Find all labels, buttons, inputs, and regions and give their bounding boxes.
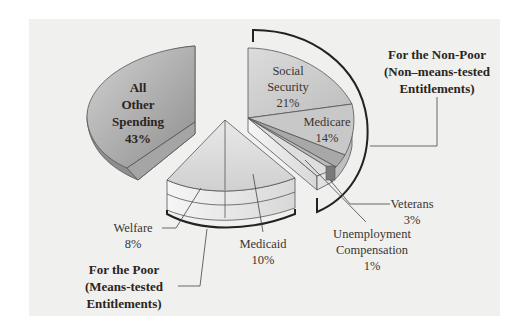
label-value: 10% [223,252,303,268]
label-line: Other [88,96,188,113]
label-group-non-poor: For the Non-Poor (Non–means-tested Entit… [367,46,507,97]
label-medicare: Medicare 14% [287,114,367,146]
veterans-side [326,166,335,180]
label-group-poor: For the Poor (Means-tested Entitlements) [59,261,189,312]
label-line: Entitlements) [59,295,189,312]
label-line: Unemployment [312,226,432,242]
label-value: 1% [312,258,432,274]
label-line: (Non–means-tested [367,63,507,80]
label-welfare: Welfare 8% [93,220,173,252]
label-value: 21% [248,95,328,111]
label-line: For the Poor [59,261,189,278]
label-line: Spending [88,113,188,130]
label-line: Medicare [287,114,367,130]
label-value: 43% [88,130,188,147]
label-value: 8% [93,236,173,252]
label-line: (Means-tested [59,278,189,295]
label-line: For the Non-Poor [367,46,507,63]
label-veterans: Veterans 3% [372,196,452,228]
label-unemployment: Unemployment Compensation 1% [312,226,432,274]
label-line: Security [248,79,328,95]
label-line: Veterans [372,196,452,212]
label-line: Compensation [312,242,432,258]
label-line: Entitlements) [367,80,507,97]
label-line: Social [248,63,328,79]
label-line: Welfare [93,220,173,236]
label-line: Medicaid [223,236,303,252]
label-medicaid: Medicaid 10% [223,236,303,268]
label-all-other-spending: All Other Spending 43% [88,79,188,147]
label-social-security: Social Security 21% [248,63,328,111]
label-value: 14% [287,130,367,146]
label-line: All [88,79,188,96]
